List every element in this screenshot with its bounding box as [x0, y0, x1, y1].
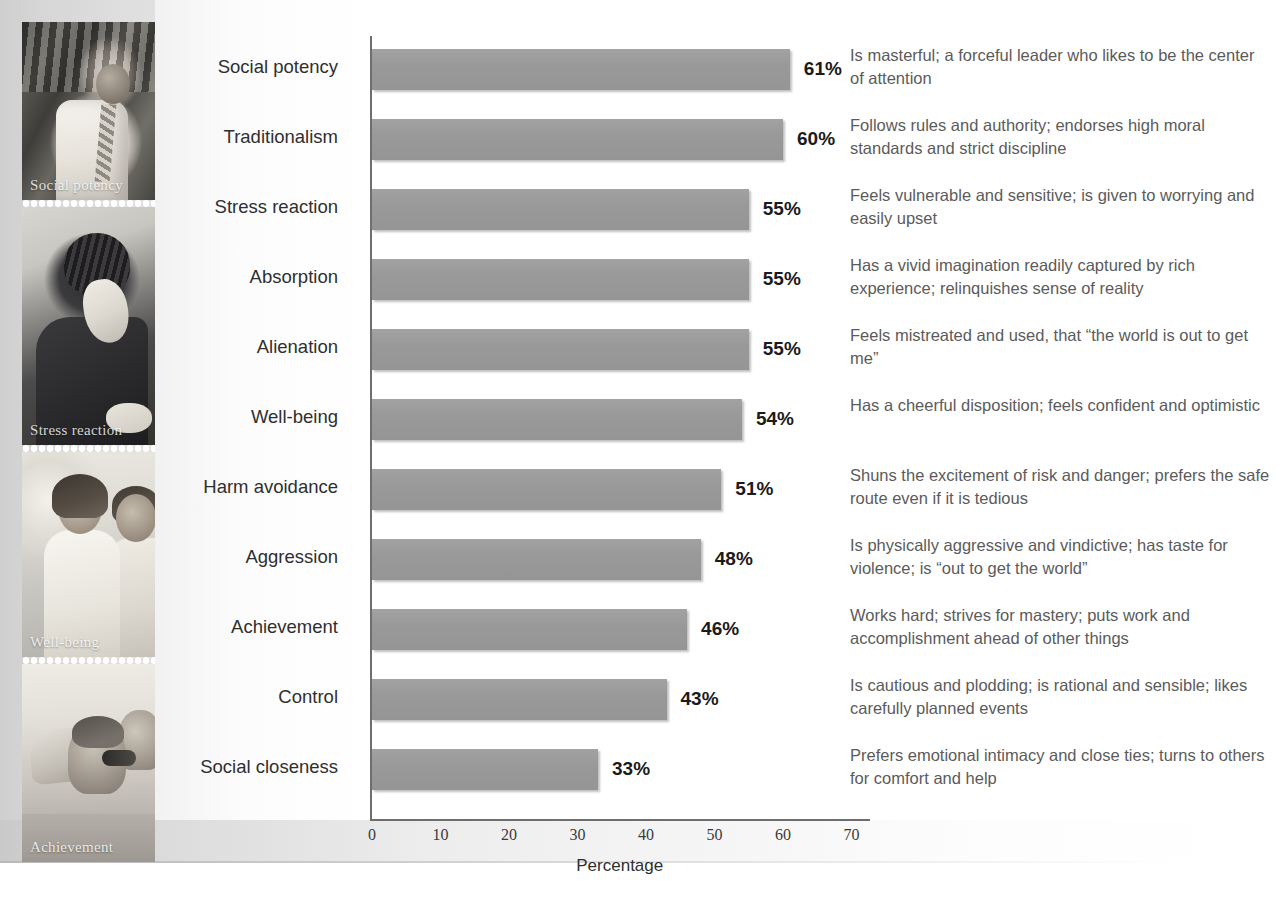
x-axis-ticks: 010203040506070: [0, 826, 1278, 852]
bar-value-label: 51%: [735, 478, 773, 500]
bar-value-label: 43%: [681, 688, 719, 710]
x-tick-label: 70: [832, 826, 872, 844]
trait-description: Has a vivid imagination readily captured…: [850, 254, 1270, 300]
figure-root: Social potency Stress reaction Well-bein…: [0, 0, 1278, 907]
trait-description: Shuns the excitement of risk and danger;…: [850, 464, 1270, 510]
bar-row: Achievement46%Works hard; strives for ma…: [0, 596, 1278, 666]
x-tick-label: 0: [352, 826, 392, 844]
bar-value-label: 60%: [797, 128, 835, 150]
trait-description: Works hard; strives for mastery; puts wo…: [850, 604, 1270, 650]
bar-value-label: 46%: [701, 618, 739, 640]
category-label: Social closeness: [38, 756, 338, 778]
x-axis-line: [370, 819, 870, 821]
bar-row: Control43%Is cautious and plodding; is r…: [0, 666, 1278, 736]
trait-description: Follows rules and authority; endorses hi…: [850, 114, 1270, 160]
bar: [372, 399, 742, 440]
category-label: Social potency: [38, 56, 338, 78]
x-tick-label: 40: [626, 826, 666, 844]
trait-description: Feels vulnerable and sensitive; is given…: [850, 184, 1270, 230]
category-label: Harm avoidance: [38, 476, 338, 498]
bar: [372, 609, 687, 650]
category-label: Achievement: [38, 616, 338, 638]
x-tick-label: 30: [558, 826, 598, 844]
bar-row: Harm avoidance51%Shuns the excitement of…: [0, 456, 1278, 526]
x-tick-label: 10: [421, 826, 461, 844]
photo-perforation-3: [22, 657, 155, 664]
bar: [372, 119, 783, 160]
bar: [372, 329, 749, 370]
bar-row: Alienation55%Feels mistreated and used, …: [0, 316, 1278, 386]
bar-row: Aggression48%Is physically aggressive an…: [0, 526, 1278, 596]
bar-value-label: 61%: [804, 58, 842, 80]
bar: [372, 189, 749, 230]
bar-value-label: 55%: [763, 268, 801, 290]
x-tick-label: 20: [489, 826, 529, 844]
photo-perforation-2: [22, 445, 155, 452]
bar: [372, 679, 667, 720]
category-label: Aggression: [38, 546, 338, 568]
bar-row: Stress reaction55%Feels vulnerable and s…: [0, 176, 1278, 246]
bar-value-label: 55%: [763, 198, 801, 220]
category-label: Control: [38, 686, 338, 708]
x-axis-title: Percentage: [370, 856, 870, 876]
bar: [372, 539, 701, 580]
category-label: Alienation: [38, 336, 338, 358]
bar-value-label: 54%: [756, 408, 794, 430]
category-label: Well-being: [38, 406, 338, 428]
bar-row: Well-being54%Has a cheerful disposition;…: [0, 386, 1278, 456]
photo-perforation-1: [22, 200, 155, 207]
trait-description: Is masterful; a forceful leader who like…: [850, 44, 1270, 90]
x-tick-label: 50: [695, 826, 735, 844]
trait-description: Is cautious and plodding; is rational an…: [850, 674, 1270, 720]
bar-row: Social potency61%Is masterful; a forcefu…: [0, 36, 1278, 106]
bar-value-label: 48%: [715, 548, 753, 570]
bar-value-label: 55%: [763, 338, 801, 360]
bar: [372, 469, 721, 510]
bar: [372, 749, 598, 790]
bar-row: Social closeness33%Prefers emotional int…: [0, 736, 1278, 806]
trait-description: Is physically aggressive and vindictive;…: [850, 534, 1270, 580]
trait-description: Prefers emotional intimacy and close tie…: [850, 744, 1270, 790]
trait-description: Has a cheerful disposition; feels confid…: [850, 394, 1270, 417]
x-tick-label: 60: [763, 826, 803, 844]
bar: [372, 49, 790, 90]
bar-value-label: 33%: [612, 758, 650, 780]
bar-chart: Social potency61%Is masterful; a forcefu…: [0, 0, 1278, 862]
category-label: Absorption: [38, 266, 338, 288]
trait-description: Feels mistreated and used, that “the wor…: [850, 324, 1270, 370]
bar-row: Absorption55%Has a vivid imagination rea…: [0, 246, 1278, 316]
category-label: Traditionalism: [38, 126, 338, 148]
bar-row: Traditionalism60%Follows rules and autho…: [0, 106, 1278, 176]
bar: [372, 259, 749, 300]
